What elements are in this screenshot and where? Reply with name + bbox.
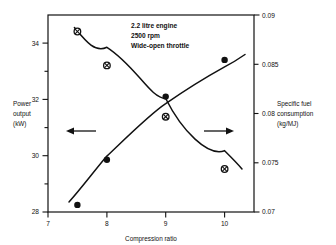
left-tick-label: 34 [32, 40, 40, 47]
x-tick-label: 10 [221, 220, 229, 227]
data-point-filled-circle [104, 157, 110, 163]
right-tick-label: 0.075 [262, 159, 279, 166]
engine-performance-chart: 28 30 32 34 0.07 0.075 0.08 0.085 0.09 7… [0, 0, 336, 245]
chart-figure: 28 30 32 34 0.07 0.075 0.08 0.085 0.09 7… [0, 0, 336, 245]
data-point-filled-circle [163, 93, 169, 99]
data-point-open-circle [74, 28, 81, 35]
right-tick-label: 0.07 [262, 208, 275, 215]
left-axis-title-line: (kW) [13, 120, 26, 128]
data-point-filled-circle [74, 202, 80, 208]
data-point-filled-circle [221, 57, 227, 63]
right-axis-title-line: Specific fuel [277, 100, 311, 108]
x-tick-label: 8 [105, 220, 109, 227]
annotation-line: 2.2 litre engine [131, 22, 178, 30]
right-tick-label: 0.085 [262, 61, 279, 68]
right-axis-title-line: consumption [277, 110, 314, 118]
data-point-open-circle [221, 166, 228, 173]
x-tick-label: 7 [46, 220, 50, 227]
data-point-open-circle [162, 113, 169, 120]
left-tick-label: 32 [32, 96, 40, 103]
x-axis-title: Compression ratio [125, 235, 177, 243]
left-axis-title-line: Power [13, 100, 32, 107]
left-axis-title-line: output [13, 110, 31, 118]
annotation-line: 2500 rpm [131, 32, 160, 40]
right-tick-label: 0.08 [262, 110, 275, 117]
data-point-open-circle [104, 62, 111, 69]
right-tick-label: 0.09 [262, 12, 275, 19]
annotation-line: Wide-open throttle [131, 42, 190, 50]
left-tick-label: 30 [32, 152, 40, 159]
x-tick-label: 9 [164, 220, 168, 227]
right-axis-title-line: (kg/MJ) [277, 120, 298, 128]
left-tick-label: 28 [32, 208, 40, 215]
